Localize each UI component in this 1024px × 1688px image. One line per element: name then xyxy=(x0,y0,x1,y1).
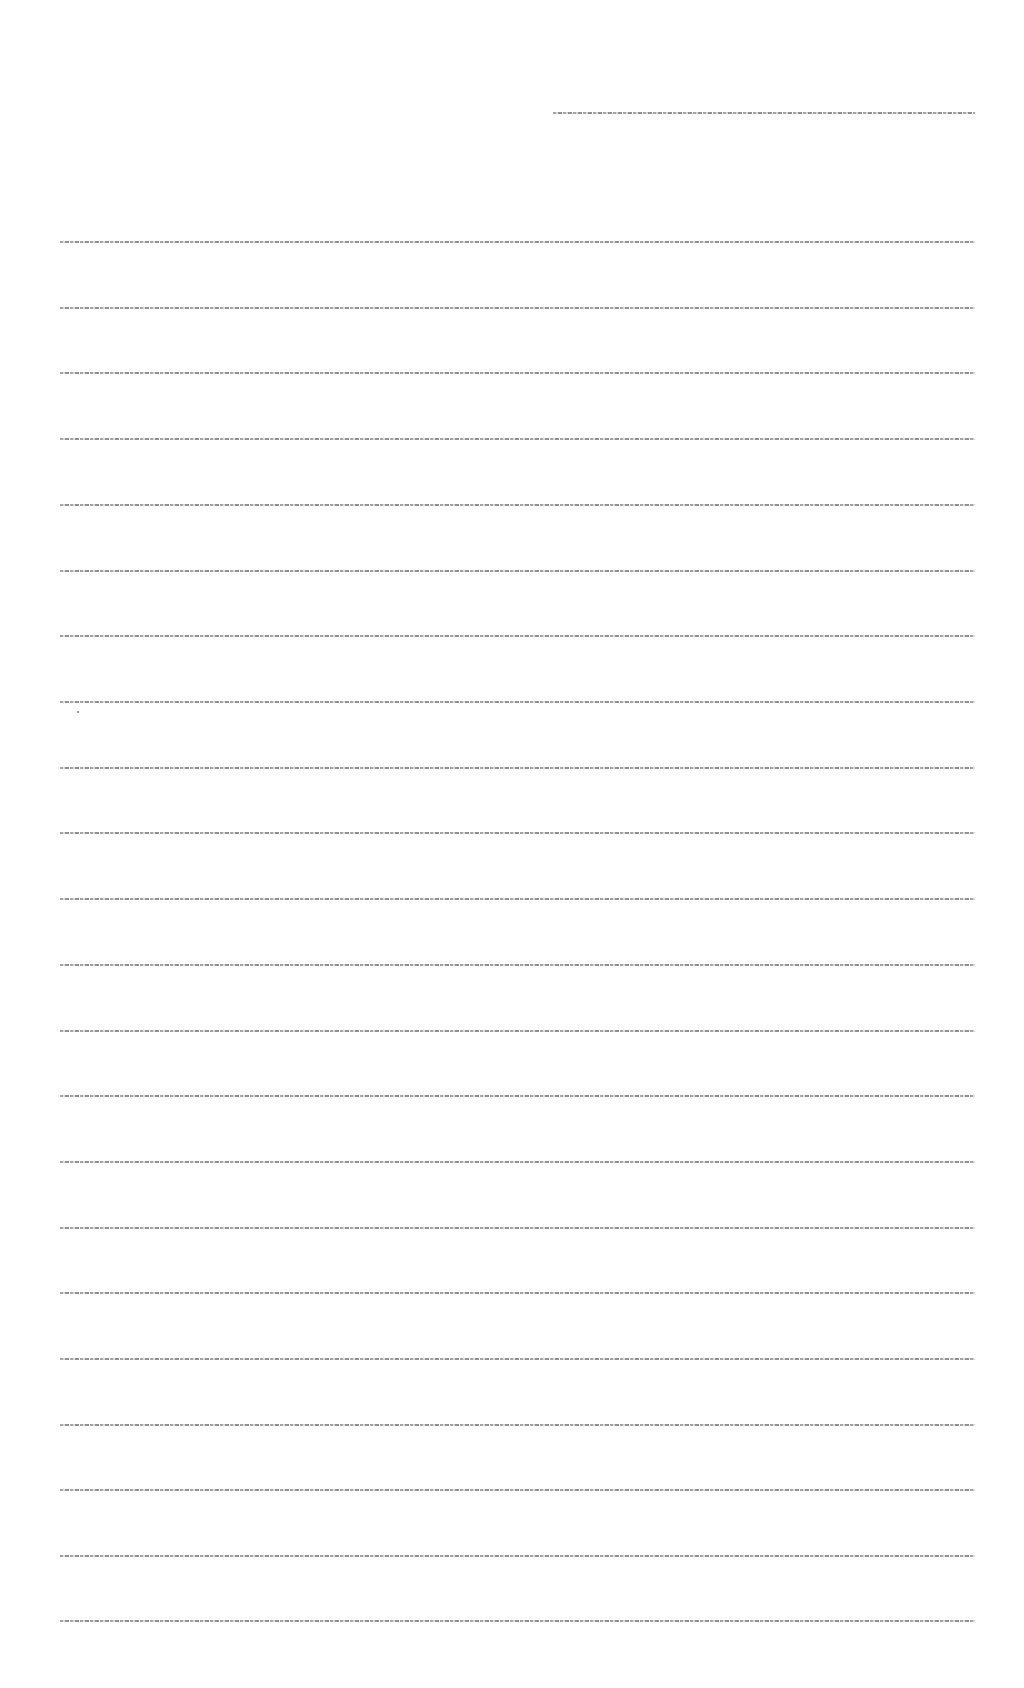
body-text-line: [illegible text line] xyxy=(60,1227,975,1229)
body-text-line: [illegible text line] xyxy=(60,898,975,900)
header-text-line: [illegible text line] xyxy=(553,112,975,114)
body-text-line: [illegible text line] xyxy=(60,635,975,637)
body-text-line: [illegible text line] xyxy=(60,1161,975,1163)
body-text-line: [illegible text line] xyxy=(60,767,975,769)
body-text-line: [illegible text line] xyxy=(60,570,975,572)
speck-mark xyxy=(77,711,79,713)
body-text-line: [illegible text line] xyxy=(60,964,975,966)
body-text-line: [illegible text line] xyxy=(60,1555,975,1557)
body-text-line: [illegible text line] xyxy=(60,701,975,703)
document-page: [illegible text line] [illegible text li… xyxy=(0,0,1024,1688)
body-text-line: [illegible text line] xyxy=(60,832,975,834)
body-text-line: [illegible text line] xyxy=(60,1358,975,1360)
body-text-line: [illegible text line] xyxy=(60,1095,975,1097)
body-text-line: [illegible text line] xyxy=(60,1030,975,1032)
body-text-line: [illegible text line] xyxy=(60,372,975,374)
body-text-line: [illegible text line] xyxy=(60,1620,975,1622)
body-text-line: [illegible text line] xyxy=(60,504,975,506)
body-text-line: [illegible text line] xyxy=(60,1424,975,1426)
body-text-line: [illegible text line] xyxy=(60,1489,975,1491)
body-text-line: [illegible text line] xyxy=(60,307,975,309)
body-text-line: [illegible text line] xyxy=(60,1292,975,1294)
body-text-line: [illegible text line] xyxy=(60,241,975,243)
body-text-line: [illegible text line] xyxy=(60,438,975,440)
